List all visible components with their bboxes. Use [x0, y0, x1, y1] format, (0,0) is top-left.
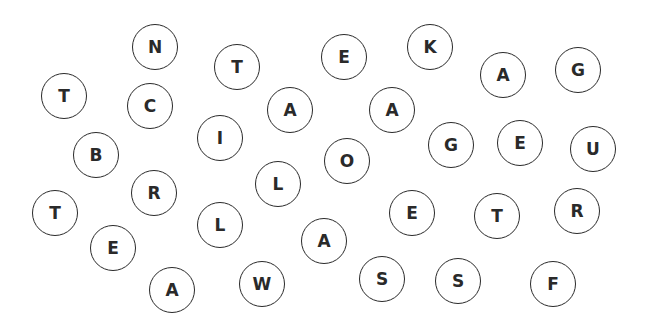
tile-letter: A — [317, 233, 330, 250]
tile-letter: I — [217, 130, 223, 147]
tile-letter: A — [165, 282, 178, 299]
tile-letter: R — [147, 185, 160, 202]
tile-letter: A — [283, 102, 296, 119]
tile-letter: R — [570, 203, 583, 220]
tile-letter: B — [90, 147, 103, 164]
tile-letter: O — [340, 153, 354, 170]
letter-tile-i[interactable]: I — [197, 115, 243, 161]
tile-letter: A — [496, 67, 509, 84]
letter-tile-a[interactable]: A — [480, 52, 526, 98]
tile-letter: T — [58, 88, 70, 105]
tile-letter: L — [273, 176, 284, 193]
letter-tile-c[interactable]: C — [127, 83, 173, 129]
tile-letter: K — [423, 39, 436, 56]
letter-tile-a[interactable]: A — [267, 87, 313, 133]
tile-letter: A — [385, 102, 398, 119]
tile-letter: S — [452, 273, 464, 290]
letter-tile-l[interactable]: L — [255, 161, 301, 207]
letter-tile-s[interactable]: S — [435, 258, 481, 304]
letter-tile-r[interactable]: R — [554, 188, 600, 234]
letter-tile-f[interactable]: F — [530, 261, 576, 307]
tile-letter: T — [491, 208, 503, 225]
letter-tile-g[interactable]: G — [428, 122, 474, 168]
letter-tile-s[interactable]: S — [359, 256, 405, 302]
tile-letter: E — [514, 135, 526, 152]
letter-tile-e[interactable]: E — [90, 225, 136, 271]
letter-tile-t[interactable]: T — [214, 44, 260, 90]
tile-letter: L — [215, 217, 226, 234]
letter-tile-k[interactable]: K — [407, 24, 453, 70]
letter-tile-g[interactable]: G — [555, 47, 601, 93]
letter-tile-e[interactable]: E — [497, 120, 543, 166]
letter-tile-a[interactable]: A — [369, 87, 415, 133]
letter-tile-w[interactable]: W — [239, 261, 285, 307]
letter-tile-t[interactable]: T — [474, 193, 520, 239]
letter-tile-e[interactable]: E — [321, 34, 367, 80]
letter-tile-r[interactable]: R — [131, 170, 177, 216]
tile-letter: T — [49, 205, 61, 222]
letter-tile-t[interactable]: T — [32, 190, 78, 236]
tile-letter: S — [376, 271, 388, 288]
tile-letter: E — [406, 205, 418, 222]
letter-tile-b[interactable]: B — [73, 132, 119, 178]
letter-board: NTEKAGTCAAIBGEUOLRTETRLEAAWSSF — [0, 0, 646, 325]
tile-letter: N — [148, 39, 162, 56]
tile-letter: F — [547, 276, 559, 293]
tile-letter: C — [144, 98, 156, 115]
letter-tile-a[interactable]: A — [149, 267, 195, 313]
tile-letter: E — [338, 49, 350, 66]
tile-letter: W — [253, 276, 272, 293]
letter-tile-o[interactable]: O — [324, 138, 370, 184]
letter-tile-a[interactable]: A — [301, 218, 347, 264]
letter-tile-n[interactable]: N — [132, 24, 178, 70]
tile-letter: U — [586, 141, 600, 158]
letter-tile-t[interactable]: T — [41, 73, 87, 119]
tile-letter: G — [571, 62, 585, 79]
letter-tile-e[interactable]: E — [389, 190, 435, 236]
tile-letter: E — [107, 240, 119, 257]
tile-letter: G — [444, 137, 458, 154]
tile-letter: T — [231, 59, 243, 76]
letter-tile-u[interactable]: U — [570, 126, 616, 172]
letter-tile-l[interactable]: L — [197, 202, 243, 248]
